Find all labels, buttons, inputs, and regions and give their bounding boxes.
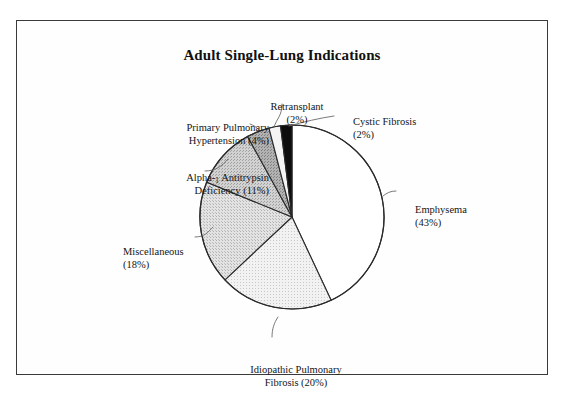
pie-label-idiopathic-pulmonary-fibrosis: Idiopathic Pulmonary Fibrosis (20%) (213, 363, 379, 389)
pie-label-emphysema-line2: (43%) (415, 216, 535, 229)
pie-label-miscellaneous: Miscellaneous (18%) (123, 245, 229, 271)
pie-label-emphysema: Emphysema (43%) (415, 203, 535, 229)
pie-label-miscellaneous-line1: Miscellaneous (123, 245, 229, 258)
pie-label-alpha1-line1-prefix: Alpha- (186, 172, 215, 183)
pie-label-ipf-line2: Fibrosis (20%) (213, 376, 379, 389)
pie-label-pph-line1: Primary Pulmonary (129, 121, 269, 134)
pie-label-ipf-line1: Idiopathic Pulmonary (213, 363, 379, 376)
pie-label-cystic-fibrosis: Cystic Fibrosis (2%) (353, 115, 459, 141)
pie-label-pph-line2: Hypertension (4%) (129, 134, 269, 147)
pie-label-alpha1-line2: Deficiency (11%) (113, 184, 269, 197)
pie-label-primary-pulmonary-hypertension: Primary Pulmonary Hypertension (4%) (129, 121, 269, 147)
pie-label-miscellaneous-line2: (18%) (123, 258, 229, 271)
figure-frame: Adult Single-Lung Indications (16, 20, 548, 375)
pie-label-emphysema-line1: Emphysema (415, 203, 535, 216)
pie-label-retransplant-line1: Retransplant (245, 100, 349, 113)
pie-label-alpha1-line1-suffix: Antitrypsin (219, 172, 269, 183)
pie-label-cystic-fibrosis-line1: Cystic Fibrosis (353, 115, 459, 128)
pie-chart (0, 0, 562, 395)
leader-line-idiopathic-pulmonary-fibrosis (272, 317, 278, 337)
pie-label-cystic-fibrosis-line2: (2%) (353, 128, 459, 141)
leader-line-emphysema (383, 191, 396, 196)
pie-label-alpha1-line1: Alpha-1 Antitrypsin (113, 171, 269, 184)
pie-label-alpha1-antitrypsin-deficiency: Alpha-1 Antitrypsin Deficiency (11%) (113, 171, 269, 197)
